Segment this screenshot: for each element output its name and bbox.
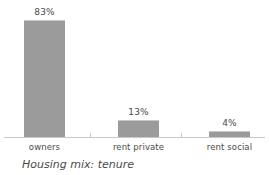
bar-value-label: 83%: [34, 7, 54, 18]
x-axis-tick: [90, 133, 91, 138]
x-axis-tick: [181, 133, 182, 138]
bar-chart: 83% 13% 4% owners rent private rent soci…: [0, 0, 269, 175]
bar-owners: [24, 20, 65, 137]
bar-group-rent-social: 4%: [209, 0, 250, 137]
plot-area: 83% 13% 4%: [0, 0, 269, 137]
bar-group-rent-private: 13%: [118, 0, 159, 137]
bar-value-label: 13%: [128, 107, 148, 118]
x-axis-line: [4, 137, 265, 138]
bar-value-label: 4%: [222, 118, 236, 129]
category-label-rent-social: rent social: [200, 142, 259, 153]
category-label-owners: owners: [24, 142, 65, 153]
bar-group-owners: 83%: [24, 0, 65, 137]
category-label-rent-private: rent private: [108, 142, 169, 153]
bar-rent-private: [118, 120, 159, 137]
chart-caption: Housing mix: tenure: [22, 158, 134, 172]
